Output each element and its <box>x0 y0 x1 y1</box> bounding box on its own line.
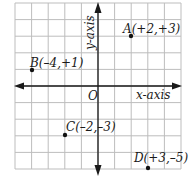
x-axis-label: x-axis <box>136 88 171 102</box>
y-axis-up-arrow-icon <box>95 2 102 13</box>
point-d-dot <box>146 166 150 170</box>
point-c-label: C(–2,–3) <box>66 120 116 134</box>
point-d: D(+3,–5) <box>133 151 188 170</box>
y-axis-label: y-axis <box>83 15 97 51</box>
point-c: C(–2,–3) <box>63 120 116 137</box>
point-a-label: A(+2,+3) <box>122 22 181 36</box>
point-d-label: D(+3,–5) <box>133 151 188 165</box>
coordinate-plane: x-axis y-axis O A(+2,+3) B(–4,+1) C(–2,–… <box>0 0 194 191</box>
point-b: B(–4,+1) <box>29 56 84 72</box>
origin-label: O <box>88 89 98 103</box>
y-axis-down-arrow-icon <box>95 165 102 176</box>
point-a: A(+2,+3) <box>122 22 181 38</box>
point-b-label: B(–4,+1) <box>29 56 84 70</box>
